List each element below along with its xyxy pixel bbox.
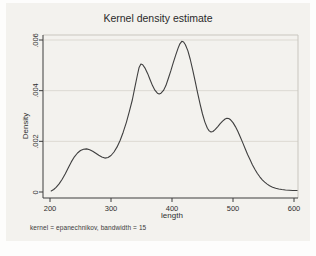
x-tick-label: 600 [281, 204, 307, 213]
y-tick-label: .006 [31, 20, 42, 60]
x-tick-label: 300 [98, 204, 124, 213]
density-curve [51, 41, 297, 191]
x-tick-label: 500 [220, 204, 246, 213]
x-axis-title: length [132, 211, 212, 223]
chart-note: kernel = epanechnikov, bandwidth = 15 [30, 224, 146, 231]
y-axis-title: Density [21, 90, 33, 162]
kdensity-figure: Kernel density estimate 0.002.004.006200… [6, 3, 310, 241]
x-tick-label: 200 [37, 204, 63, 213]
